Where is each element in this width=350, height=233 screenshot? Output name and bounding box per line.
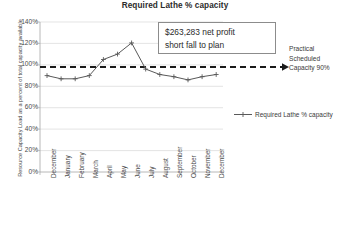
x-tick-label-september: September [176, 147, 183, 178]
x-tick-label-november: November [204, 149, 211, 178]
x-tick-label-april: April [106, 165, 113, 178]
reference-line [40, 63, 289, 71]
x-tick-label-january: January [64, 155, 71, 178]
x-tick-label-december-1: December [50, 149, 57, 178]
x-tick-label-october: October [190, 155, 197, 178]
x-tick-label-february: February [78, 152, 85, 178]
x-tick-label-june: June [134, 164, 141, 178]
x-tick-label-march: March [92, 160, 99, 178]
x-tick-label-august: August [162, 158, 169, 178]
reference-line-label-line-3: Capacity 90% [289, 63, 349, 73]
annotation-line-2: short fall to plan [165, 39, 270, 52]
reference-line-label: Practical Scheduled Capacity 90% [289, 44, 349, 73]
chart-legend: Required Lathe % capacity [233, 110, 333, 119]
legend-marker-icon [233, 110, 253, 119]
legend-label-required-lathe: Required Lathe % capacity [255, 111, 333, 118]
y-axis-ticks [37, 22, 40, 172]
reference-line-label-line-1: Practical [289, 44, 349, 54]
x-tick-label-december-2: December [218, 149, 225, 178]
x-tick-label-july: July [148, 167, 155, 178]
reference-line-label-line-2: Scheduled [289, 54, 349, 64]
annotation-callout: $263,283 net profit short fall to plan [158, 22, 276, 54]
chart-container: Required Lathe % capacity Resource Capac… [0, 0, 350, 233]
reference-line-arrowhead [282, 63, 289, 71]
x-tick-label-may: May [120, 166, 127, 178]
annotation-line-1: $263,283 net profit [165, 26, 270, 39]
